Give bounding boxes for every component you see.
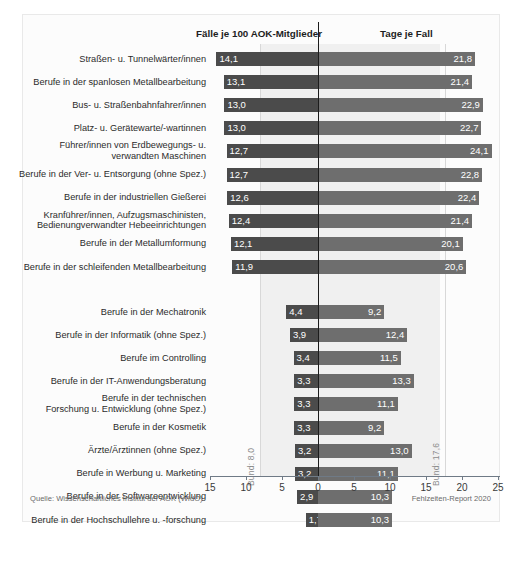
axis-tick: [318, 476, 319, 480]
category-label: Berufe in der Metallumformung: [18, 238, 206, 249]
column-header-cases: Fälle je 100 AOK-Mitglieder: [196, 28, 322, 39]
bar-cases: 3,2: [295, 467, 318, 481]
bar-days: 13,3: [318, 374, 414, 388]
bar-row: 1,710,3: [210, 513, 500, 527]
bar-cases: 3,3: [294, 397, 318, 411]
column-header-days: Tage je Fall: [380, 28, 433, 39]
bar-cases: 4,4: [286, 305, 318, 319]
category-label: Berufe in der Hochschullehre u. -forschu…: [18, 515, 206, 526]
axis-tick-label: 15: [420, 482, 431, 493]
category-label: Berufe in der Informatik (ohne Spez.): [18, 330, 206, 341]
axis-tick-label: 20: [456, 482, 467, 493]
bar-row: 13,121,4: [210, 75, 500, 89]
bar-days: 11,1: [318, 467, 398, 481]
bar-row: 3,313,3: [210, 374, 500, 388]
axis-tick: [390, 476, 391, 480]
bar-days: 11,1: [318, 397, 398, 411]
bar-days: 11,5: [318, 351, 401, 365]
source-note: Quelle: Wissenschaftliches Institut der …: [30, 494, 203, 503]
bar-cases: 13,1: [224, 75, 318, 89]
bar-row: 3,311,1: [210, 397, 500, 411]
bar-days: 20,6: [318, 260, 466, 274]
bar-cases: 12,4: [229, 214, 318, 228]
axis-tick: [426, 476, 427, 480]
category-label: Bus- u. Straßenbahnfahrer/innen: [18, 100, 206, 111]
category-label: Berufe in der IT-Anwendungsberatung: [18, 376, 206, 387]
bar-row: 4,49,2: [210, 305, 500, 319]
bar-cases: 1,7: [306, 513, 318, 527]
report-note: Fehlzeiten-Report 2020: [412, 494, 491, 503]
bar-row: 12,724,1: [210, 144, 500, 158]
category-label: Straßen- u. Tunnelwärter/innen: [18, 54, 206, 65]
axis-tick-label: 10: [240, 482, 251, 493]
bar-cases: 3,3: [294, 374, 318, 388]
bar-cases: 14,1: [216, 52, 318, 66]
plot-area: Bund: 8,0 Bund: 17,6 14,121,813,121,413,…: [210, 44, 500, 520]
bar-row: 13,022,9: [210, 98, 500, 112]
bar-days: 21,4: [318, 75, 472, 89]
axis-tick-label: 0: [315, 482, 321, 493]
bar-cases: 3,2: [295, 444, 318, 458]
zero-axis-line: [318, 22, 319, 476]
bar-cases: 3,3: [294, 421, 318, 435]
x-axis-line: [210, 476, 500, 477]
axis-tick: [210, 476, 211, 480]
bar-days: 24,1: [318, 144, 492, 158]
bar-cases: 3,4: [294, 351, 318, 365]
bar-cases: 12,7: [227, 144, 318, 158]
bar-days: 22,9: [318, 98, 483, 112]
bar-days: 12,4: [318, 328, 407, 342]
axis-tick: [354, 476, 355, 480]
bar-days: 9,2: [318, 421, 384, 435]
bar-row: 3,213,0: [210, 444, 500, 458]
bar-row: 12,421,4: [210, 214, 500, 228]
bar-row: 3,211,1: [210, 467, 500, 481]
bar-cases: 12,6: [227, 191, 318, 205]
bar-row: 12,722,8: [210, 168, 500, 182]
bar-days: 10,3: [318, 513, 392, 527]
category-label: Berufe in der Mechatronik: [18, 307, 206, 318]
category-label: Kranführer/innen, Aufzugsmaschinisten,Be…: [18, 210, 206, 231]
bar-cases: 3,9: [290, 328, 318, 342]
bar-cases: 12,1: [231, 237, 318, 251]
axis-tick: [498, 476, 499, 480]
bar-row: 11,920,6: [210, 260, 500, 274]
bar-days: 21,4: [318, 214, 472, 228]
category-label: Berufe in Werbung u. Marketing: [18, 468, 206, 479]
axis-tick: [282, 476, 283, 480]
axis-tick: [462, 476, 463, 480]
category-label: Berufe in der Ver- u. Entsorgung (ohne S…: [18, 169, 206, 180]
bar-row: 14,121,8: [210, 52, 500, 66]
bar-row: 12,120,1: [210, 237, 500, 251]
bar-row: 12,622,4: [210, 191, 500, 205]
bar-row: 3,39,2: [210, 421, 500, 435]
category-label: Ärzte/Ärztinnen (ohne Spez.): [18, 445, 206, 456]
bar-cases: 13,0: [224, 98, 318, 112]
bar-days: 20,1: [318, 237, 463, 251]
bar-days: 22,7: [318, 121, 481, 135]
bar-days: 13,0: [318, 444, 412, 458]
bar-row: 3,411,5: [210, 351, 500, 365]
category-label: Berufe in der Kosmetik: [18, 422, 206, 433]
category-label: Berufe in der technischenForschung u. En…: [18, 393, 206, 414]
axis-tick: [246, 476, 247, 480]
bar-row: 13,022,7: [210, 121, 500, 135]
bar-cases: 11,9: [232, 260, 318, 274]
axis-tick-label: 5: [351, 482, 357, 493]
bar-days: 21,8: [318, 52, 475, 66]
category-label: Berufe in der schleifenden Metallbearbei…: [18, 262, 206, 273]
bar-cases: 13,0: [224, 121, 318, 135]
category-label: Platz- u. Gerätewarte/-wartinnen: [18, 123, 206, 134]
category-label: Führer/innen von Erdbewegungs- u.verwand…: [18, 140, 206, 161]
bar-cases: 12,7: [227, 168, 318, 182]
bar-days: 22,8: [318, 168, 482, 182]
axis-tick-label: 15: [204, 482, 215, 493]
axis-tick-label: 5: [279, 482, 285, 493]
category-label: Berufe im Controlling: [18, 353, 206, 364]
bar-days: 9,2: [318, 305, 384, 319]
chart-page: Fälle je 100 AOK-Mitglieder Tage je Fall…: [0, 0, 521, 578]
bar-row: 3,912,4: [210, 328, 500, 342]
category-label: Berufe in der industriellen Gießerei: [18, 192, 206, 203]
category-label: Berufe in der spanlosen Metallbearbeitun…: [18, 77, 206, 88]
axis-tick-label: 10: [384, 482, 395, 493]
